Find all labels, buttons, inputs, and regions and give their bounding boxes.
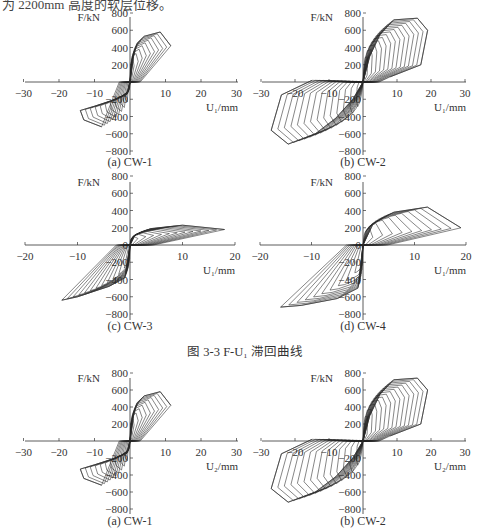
y-axis-label: F/kN: [310, 11, 333, 23]
chart-panel-1: 800600400200−200−400−600−800−30−20−10102…: [15, 7, 243, 169]
hysteresis-loop: [62, 225, 225, 300]
y-tick-label: 600: [112, 24, 129, 36]
skeleton-curve: [62, 225, 225, 300]
y-tick-label: 600: [112, 384, 129, 396]
y-tick-label: −600: [338, 128, 361, 140]
y-tick-label: 800: [345, 7, 362, 19]
x-tick-label: −30: [15, 446, 33, 458]
x-tick-label: −30: [252, 87, 270, 99]
x-tick-label: 20: [196, 87, 208, 99]
panel-caption: (d) CW-4: [340, 319, 386, 333]
y-tick-label: 800: [345, 170, 362, 182]
chart-panel-6: 800600400200−200−400−600−800−30−20−10102…: [252, 367, 471, 528]
y-axis-label: F/kN: [77, 11, 100, 23]
y-axis-label: F/kN: [77, 372, 100, 384]
x-tick-label: −30: [252, 446, 270, 458]
x-tick-label: 20: [426, 446, 438, 458]
y-axis-label: F/kN: [310, 176, 333, 188]
hysteresis-figure: 800600400200−200−400−600−800−30−20−10102…: [0, 0, 490, 530]
y-tick-label: 600: [345, 384, 362, 396]
y-tick-label: 800: [112, 7, 129, 19]
x-axis-label: U₁/mm: [434, 101, 466, 113]
y-tick-label: 200: [112, 418, 129, 430]
hysteresis-loop: [322, 215, 412, 294]
x-tick-label: −30: [15, 87, 33, 99]
x-tick-label: 20: [426, 87, 438, 99]
y-tick-label: 800: [112, 367, 129, 379]
y-tick-label: −600: [338, 291, 361, 303]
x-tick-label: 10: [392, 87, 404, 99]
x-tick-label: −20: [50, 446, 68, 458]
chart-panel-3: 8006004002000−200−400−600−800−20−101020F…: [16, 170, 241, 333]
x-axis-label: U₁/mm: [434, 264, 466, 276]
hysteresis-loop: [105, 402, 150, 475]
hysteresis-loop: [105, 43, 150, 117]
y-tick-label: 400: [112, 205, 129, 217]
x-tick-label: 30: [460, 87, 472, 99]
y-tick-label: 200: [345, 59, 362, 71]
x-tick-label: 20: [196, 446, 208, 458]
x-tick-label: −20: [16, 250, 34, 262]
x-axis-label: U₁/mm: [203, 264, 235, 276]
panel-caption: (b) CW-2: [340, 155, 386, 169]
x-tick-label: 30: [231, 87, 243, 99]
y-tick-label: −600: [338, 486, 361, 498]
y-axis-label: F/kN: [77, 176, 100, 188]
x-tick-label: 30: [460, 446, 472, 458]
hysteresis-loop: [67, 226, 216, 299]
y-tick-label: 400: [112, 401, 129, 413]
x-tick-label: −10: [320, 87, 338, 99]
chart-panel-2: 800600400200−200−400−600−800−30−20−10102…: [252, 7, 471, 169]
panel-caption: (c) CW-3: [108, 319, 153, 333]
chart-panel-4: 8006004002000−200−400−600−800−20−101020F…: [251, 170, 472, 333]
y-tick-label: 200: [112, 222, 129, 234]
y-tick-label: 600: [345, 24, 362, 36]
y-tick-label: 600: [345, 187, 362, 199]
x-axis-label: U₂/mm: [434, 460, 466, 472]
x-tick-label: −10: [320, 446, 338, 458]
x-tick-label: 20: [461, 250, 473, 262]
panel-caption: (b) CW-2: [340, 514, 386, 528]
x-tick-label: −20: [251, 250, 269, 262]
x-tick-label: 10: [177, 250, 189, 262]
x-tick-label: −10: [303, 250, 321, 262]
hysteresis-loop: [314, 213, 422, 297]
x-tick-label: 30: [231, 446, 243, 458]
panel-caption: (a) CW-1: [108, 155, 153, 169]
y-tick-label: 400: [345, 401, 362, 413]
y-axis-label: F/kN: [310, 372, 333, 384]
x-tick-label: 10: [160, 446, 172, 458]
y-tick-label: −600: [105, 486, 128, 498]
x-tick-label: −10: [86, 87, 104, 99]
x-tick-label: −10: [69, 250, 87, 262]
y-tick-label: −600: [105, 128, 128, 140]
x-axis-label: U₂/mm: [206, 460, 238, 472]
x-tick-label: −10: [86, 446, 104, 458]
y-tick-label: −600: [105, 291, 128, 303]
figure-caption: 图 3-3 F-U₁ 滞回曲线: [0, 341, 490, 360]
y-tick-label: 800: [112, 170, 129, 182]
chart-panel-5: 800600400200−200−400−600−800−30−20−10102…: [15, 367, 243, 528]
x-tick-label: 10: [392, 446, 404, 458]
y-tick-label: 400: [345, 205, 362, 217]
y-tick-label: 600: [112, 187, 129, 199]
x-axis-label: U₁/mm: [206, 101, 238, 113]
y-tick-label: 200: [345, 418, 362, 430]
y-tick-label: 400: [112, 42, 129, 54]
x-tick-label: 20: [230, 250, 242, 262]
y-tick-label: 200: [112, 59, 129, 71]
x-tick-label: 10: [409, 250, 421, 262]
x-tick-label: 10: [160, 87, 172, 99]
y-tick-label: 200: [345, 222, 362, 234]
y-tick-label: 800: [345, 367, 362, 379]
x-tick-label: −20: [50, 87, 68, 99]
y-tick-label: 400: [345, 42, 362, 54]
panel-caption: (a) CW-1: [108, 514, 153, 528]
